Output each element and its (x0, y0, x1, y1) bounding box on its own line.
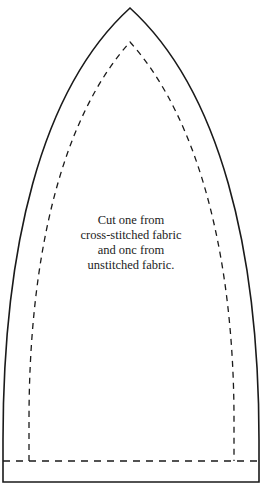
instruction-line: and onc from (60, 243, 202, 258)
instruction-line: unstitched fabric. (60, 258, 202, 273)
instruction-line: cross-stitched fabric (60, 228, 202, 243)
instruction-line: Cut one from (60, 213, 202, 228)
instruction-text: Cut one from cross-stitched fabric and o… (60, 213, 202, 273)
